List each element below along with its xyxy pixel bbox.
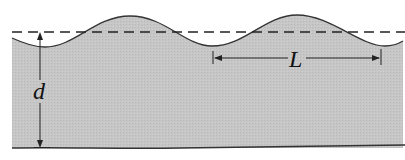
wavelength-label: L — [289, 47, 302, 71]
arrowhead-up-icon — [37, 32, 43, 40]
water-body — [12, 15, 403, 148]
wave-diagram — [0, 0, 405, 160]
depth-label: d — [33, 79, 45, 103]
below-seabed — [0, 149, 405, 160]
